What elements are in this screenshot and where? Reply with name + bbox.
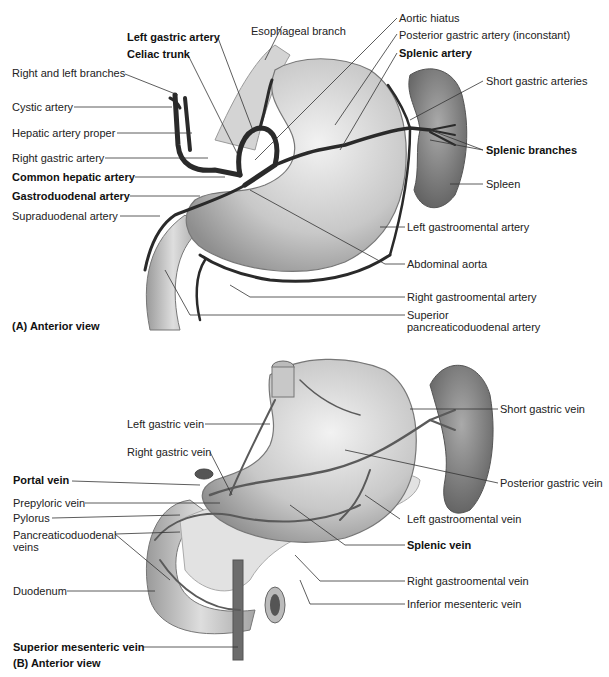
label-esophageal-branch: Esophageal branch bbox=[251, 25, 346, 38]
label-pancreaticoduodenal-veins-line2: veins bbox=[13, 541, 39, 554]
label-spleen: Spleen bbox=[486, 178, 520, 191]
label-left-gastric-artery: Left gastric artery bbox=[127, 31, 220, 44]
label-left-gastroomental-artery: Left gastroomental artery bbox=[407, 221, 529, 234]
label-short-gastric-arteries: Short gastric arteries bbox=[486, 75, 587, 88]
label-splenic-artery: Splenic artery bbox=[399, 47, 472, 60]
label-common-hepatic-artery: Common hepatic artery bbox=[12, 171, 135, 184]
panel-b-art bbox=[146, 359, 493, 660]
label-right-gastroomental-vein: Right gastroomental vein bbox=[407, 575, 529, 588]
label-gastroduodenal-artery: Gastroduodenal artery bbox=[12, 190, 130, 203]
label-superior-mesenteric-vein: Superior mesenteric vein bbox=[13, 641, 144, 654]
caption-panel-b: (B) Anterior view bbox=[13, 657, 101, 669]
label-right-gastric-artery: Right gastric artery bbox=[12, 152, 104, 165]
label-cystic-artery: Cystic artery bbox=[12, 101, 73, 114]
label-inferior-mesenteric-vein: Inferior mesenteric vein bbox=[407, 598, 521, 611]
label-right-gastroomental-artery: Right gastroomental artery bbox=[407, 291, 537, 304]
label-pylorus: Pylorus bbox=[13, 512, 50, 525]
label-posterior-gastric-artery: Posterior gastric artery (inconstant) bbox=[399, 29, 570, 42]
label-posterior-gastric-vein: Posterior gastric vein bbox=[500, 477, 603, 490]
label-right-gastric-vein: Right gastric vein bbox=[127, 446, 211, 459]
label-aortic-hiatus: Aortic hiatus bbox=[399, 12, 460, 25]
label-celiac-trunk: Celiac trunk bbox=[127, 48, 190, 61]
label-superior-pancreaticoduodenal-artery-line2: pancreaticoduodenal artery bbox=[407, 321, 540, 334]
label-duodenum: Duodenum bbox=[13, 585, 67, 598]
label-portal-vein: Portal vein bbox=[13, 474, 69, 487]
panel-a-art bbox=[145, 45, 467, 330]
label-prepyloric-vein: Prepyloric vein bbox=[13, 497, 85, 510]
label-short-gastric-vein: Short gastric vein bbox=[500, 403, 585, 416]
label-splenic-branches: Splenic branches bbox=[486, 144, 577, 157]
caption-panel-a: (A) Anterior view bbox=[12, 320, 100, 332]
label-right-left-branches: Right and left branches bbox=[12, 67, 125, 80]
label-left-gastric-vein: Left gastric vein bbox=[127, 418, 204, 431]
label-supraduodenal-artery: Supraduodenal artery bbox=[12, 210, 118, 223]
label-hepatic-artery-proper: Hepatic artery proper bbox=[12, 127, 115, 140]
label-abdominal-aorta: Abdominal aorta bbox=[407, 258, 487, 271]
label-splenic-vein: Splenic vein bbox=[407, 539, 471, 552]
label-left-gastroomental-vein: Left gastroomental vein bbox=[407, 513, 521, 526]
